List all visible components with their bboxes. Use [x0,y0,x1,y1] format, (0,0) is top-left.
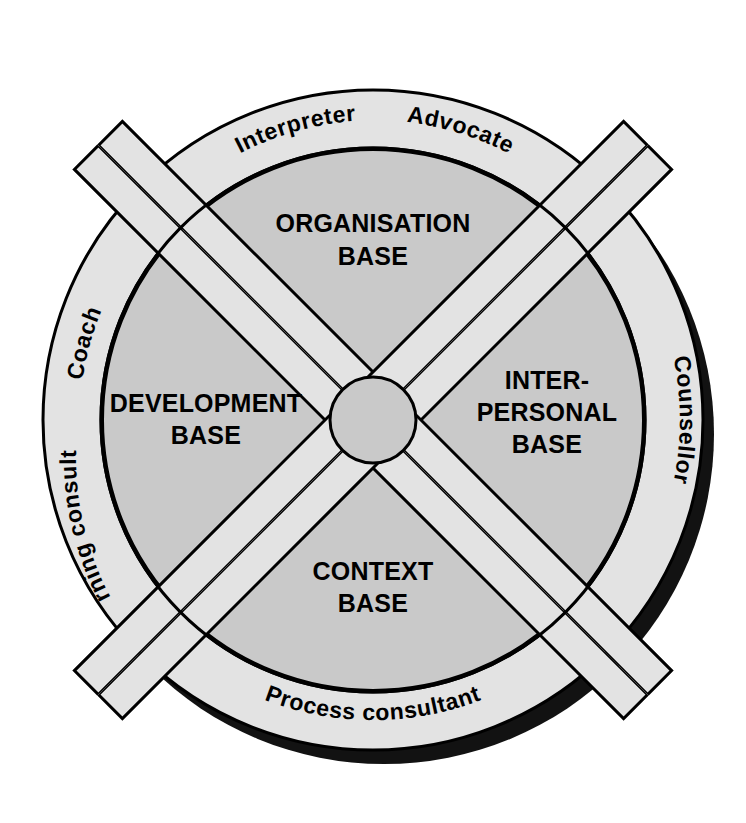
segment-label-organisation-line2: BASE [338,242,408,270]
segment-label-development-line1: DEVELOPMENT [110,389,303,417]
segment-label-interpersonal-line3: BASE [512,430,582,458]
segment-label-development-line2: BASE [171,421,241,449]
segment-label-interpersonal-line2: PERSONAL [477,398,618,426]
segment-label-context-line1: CONTEXT [313,557,434,585]
segment-label-organisation-line1: ORGANISATION [276,209,471,237]
centre-hub[interactable] [330,377,416,463]
segment-label-context-line2: BASE [338,589,408,617]
segment-label-interpersonal-line1: INTER- [505,366,590,394]
consultancy-roles-wheel: ORGANISATION BASE INTER- PERSONAL BASE C… [0,0,746,823]
